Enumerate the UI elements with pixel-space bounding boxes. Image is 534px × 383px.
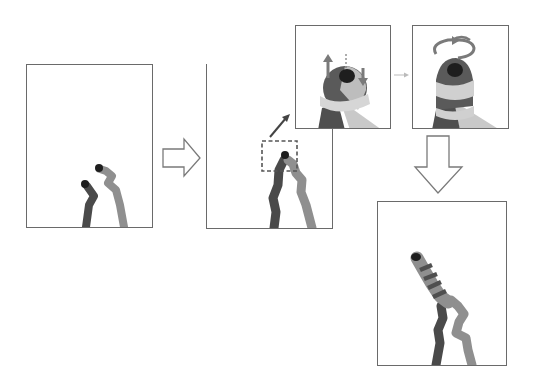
arrow-small-right-icon — [394, 73, 409, 78]
arrow-down-hollow-icon — [415, 136, 462, 193]
tip — [281, 151, 289, 159]
panel-3-inset — [318, 54, 382, 130]
light-strand-tip — [95, 164, 103, 172]
diagram-stage: Step-by-step illustration of two strands… — [0, 0, 534, 383]
light-strand — [288, 160, 312, 228]
panel-2-strands — [273, 151, 312, 228]
tip-dark-spot — [339, 69, 355, 83]
light-strand — [100, 169, 124, 227]
rotation-arrow-icon — [435, 36, 475, 58]
light-strand — [451, 300, 472, 365]
panel-5-final — [411, 253, 472, 365]
arrow-zoom-diagonal-icon — [270, 118, 286, 137]
final-tip — [411, 253, 421, 261]
arrow-right-hollow-icon — [163, 139, 200, 176]
panel-4-inset — [432, 36, 500, 130]
panel-1-strands — [81, 164, 124, 227]
dark-strand — [436, 300, 444, 365]
tip-dark-spot — [447, 63, 463, 77]
dark-strand — [86, 186, 94, 227]
dark-strand-tip — [81, 180, 89, 188]
diagram-drawing — [0, 0, 534, 383]
